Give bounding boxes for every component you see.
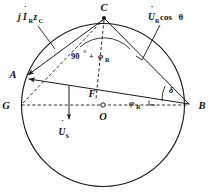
point-marker-o xyxy=(101,103,105,107)
leader-tick-urcos xyxy=(136,56,142,60)
vertex-label-o: O xyxy=(99,111,107,122)
label-jirzc-z: z xyxy=(33,12,38,22)
point-marker-c xyxy=(102,16,106,20)
figure-root: A B C G F O j ˙ I R z C ˙ U R cos θ xyxy=(0,0,216,196)
angle-arc-at-c xyxy=(80,38,130,49)
angle-tick-phi-r xyxy=(149,101,155,106)
vertex-label-b: B xyxy=(197,100,205,111)
label-angle-plus: + xyxy=(89,51,94,61)
label-us: ˙ U S xyxy=(59,118,70,139)
label-angle-90: 90 xyxy=(71,51,80,61)
label-urcostheta: ˙ U R cos θ xyxy=(148,4,184,24)
circle-phasor-diagram: A B C G F O j ˙ I R z C ˙ U R cos θ xyxy=(0,0,216,196)
vertex-label-f: F xyxy=(87,88,95,99)
segment-b-to-a xyxy=(29,79,189,104)
label-phir-phi: φ xyxy=(129,98,134,108)
label-jirzc-sub-c: C xyxy=(39,17,44,24)
label-jirzc-i: I xyxy=(22,12,27,22)
label-urcos-theta: θ xyxy=(179,12,184,22)
label-angle-delta: δ xyxy=(169,85,174,95)
label-jirzc-j: j xyxy=(16,12,21,22)
vertex-label-a: A xyxy=(8,69,16,80)
label-jirzc: j ˙ I R z C xyxy=(16,4,44,24)
label-urcos-cos: cos xyxy=(160,12,172,22)
vertex-label-g: G xyxy=(2,100,10,111)
leader-line-urcos xyxy=(142,25,160,60)
label-angle-phir-at-b: φ R xyxy=(129,98,141,110)
label-angle-phi: φ xyxy=(98,51,103,61)
label-phir-sub: R xyxy=(136,103,141,110)
vertex-label-c: C xyxy=(100,2,108,13)
label-angle-phi-sub: R xyxy=(105,56,110,63)
label-angle-degree-symbol: ° xyxy=(83,48,86,58)
label-us-sub-s: S xyxy=(66,132,70,139)
segment-c-to-b xyxy=(105,19,189,104)
label-angle-90-plus-phir: 90 ° + φ R xyxy=(71,48,110,63)
angle-arc-delta xyxy=(162,86,165,101)
